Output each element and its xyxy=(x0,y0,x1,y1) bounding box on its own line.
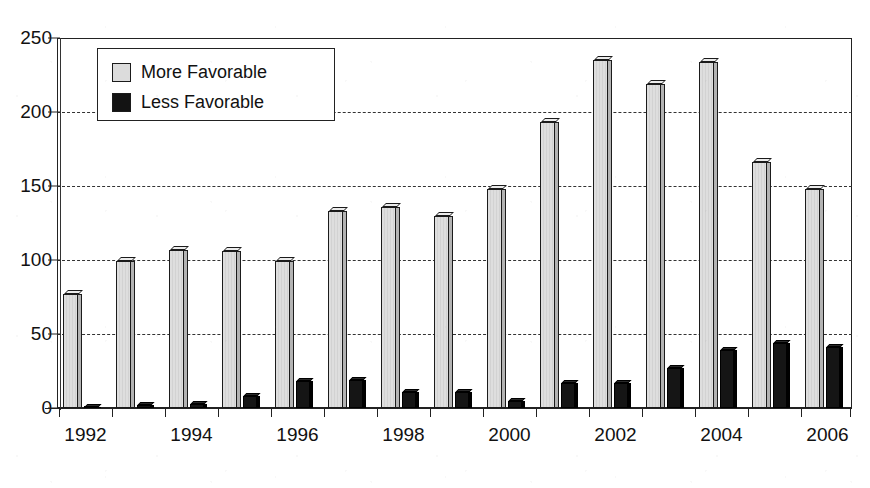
bar-side-3d xyxy=(257,396,260,408)
bar-less-favorable-1993 xyxy=(137,405,151,408)
bar-side-3d xyxy=(820,189,824,408)
bar-side-3d xyxy=(131,261,135,408)
bar-less-favorable-2000 xyxy=(508,401,522,408)
bar-side-3d xyxy=(522,401,525,408)
bar-face xyxy=(381,207,396,408)
bar-face xyxy=(434,216,449,408)
bar-group-2005 xyxy=(752,38,799,408)
y-axis-tick-label-150: 150 xyxy=(8,175,52,197)
legend-box: More Favorable Less Favorable xyxy=(97,48,335,121)
bar-side-3d xyxy=(555,122,559,408)
bar-face xyxy=(349,380,363,408)
bar-more-favorable-2003 xyxy=(646,84,661,408)
bar-more-favorable-2002 xyxy=(593,60,608,408)
bar-less-favorable-1996 xyxy=(296,381,310,408)
bar-less-favorable-1997 xyxy=(349,380,363,408)
bar-face xyxy=(137,405,151,408)
x-axis-tick-2001 xyxy=(536,408,537,417)
bar-side-3d xyxy=(151,405,154,408)
bar-side-3d xyxy=(184,250,188,408)
x-axis-tick-1992 xyxy=(59,408,60,417)
bar-more-favorable-1993 xyxy=(116,261,131,408)
bar-face xyxy=(667,368,681,408)
bar-side-3d xyxy=(469,392,472,408)
bar-group-1997 xyxy=(328,38,375,408)
bar-group-2003 xyxy=(646,38,693,408)
y-axis-tick-label-200: 200 xyxy=(8,101,52,123)
bar-group-2004 xyxy=(699,38,746,408)
x-axis-tick-1996 xyxy=(271,408,272,417)
x-axis-tick-1997 xyxy=(324,408,325,417)
bar-side-3d xyxy=(661,84,665,408)
bar-face xyxy=(222,251,237,408)
bar-face xyxy=(752,162,767,408)
bar-side-3d xyxy=(416,392,419,408)
bar-side-3d xyxy=(608,60,612,408)
bar-face xyxy=(190,404,204,408)
x-axis-label-1996: 1996 xyxy=(276,424,318,446)
bar-more-favorable-1994 xyxy=(169,250,184,408)
bar-side-3d xyxy=(787,343,790,408)
bar-group-2001 xyxy=(540,38,587,408)
bar-face xyxy=(508,401,522,408)
y-axis-tick-label-250: 250 xyxy=(8,27,52,49)
bar-more-favorable-2004 xyxy=(699,62,714,408)
bar-more-favorable-2000 xyxy=(487,189,502,408)
bar-group-1999 xyxy=(434,38,481,408)
bar-face xyxy=(296,381,310,408)
bar-side-3d xyxy=(734,350,737,408)
bar-face xyxy=(116,261,131,408)
bar-top-3d xyxy=(615,380,632,383)
bar-less-favorable-2001 xyxy=(561,383,575,408)
bar-less-favorable-1999 xyxy=(455,392,469,408)
bar-top-3d xyxy=(350,377,367,380)
bar-face xyxy=(328,211,343,408)
bar-less-favorable-1995 xyxy=(243,396,257,408)
x-axis-label-2004: 2004 xyxy=(700,424,742,446)
bar-face xyxy=(402,392,416,408)
bar-face xyxy=(63,294,78,408)
bar-face xyxy=(805,189,820,408)
bar-side-3d xyxy=(502,189,506,408)
bar-face xyxy=(614,383,628,408)
bar-more-favorable-2001 xyxy=(540,122,555,408)
x-axis-label-1998: 1998 xyxy=(382,424,424,446)
bar-more-favorable-1992 xyxy=(63,294,78,408)
bar-top-3d xyxy=(191,401,208,404)
bar-group-2006 xyxy=(805,38,852,408)
bar-side-3d xyxy=(714,62,718,408)
x-axis-tick-2004 xyxy=(695,408,696,417)
bar-top-3d xyxy=(85,404,102,407)
bar-top-3d xyxy=(562,380,579,383)
bar-side-3d xyxy=(575,383,578,408)
bar-more-favorable-2006 xyxy=(805,189,820,408)
x-axis-tick-2005 xyxy=(748,408,749,417)
x-axis-tick-end xyxy=(850,408,851,417)
bar-face xyxy=(699,62,714,408)
bar-more-favorable-1997 xyxy=(328,211,343,408)
bar-more-favorable-1998 xyxy=(381,207,396,408)
bar-top-3d xyxy=(774,340,791,343)
bar-group-1998 xyxy=(381,38,428,408)
x-axis-tick-1994 xyxy=(165,408,166,417)
x-axis-tick-2003 xyxy=(642,408,643,417)
bar-less-favorable-2003 xyxy=(667,368,681,408)
bar-more-favorable-2005 xyxy=(752,162,767,408)
bar-less-favorable-1998 xyxy=(402,392,416,408)
x-axis-tick-2006 xyxy=(801,408,802,417)
x-axis-label-1992: 1992 xyxy=(64,424,106,446)
bar-side-3d xyxy=(681,368,684,408)
bar-face xyxy=(561,383,575,408)
bar-top-3d xyxy=(509,398,526,401)
x-axis-label-2000: 2000 xyxy=(488,424,530,446)
bar-less-favorable-2004 xyxy=(720,350,734,408)
bar-face xyxy=(826,347,840,408)
bar-side-3d xyxy=(290,261,294,408)
bar-more-favorable-1999 xyxy=(434,216,449,408)
x-axis-label-2002: 2002 xyxy=(594,424,636,446)
bar-top-3d xyxy=(456,389,473,392)
bar-face xyxy=(593,60,608,408)
legend-swatch-less-favorable-icon xyxy=(112,93,131,112)
bar-face xyxy=(169,250,184,408)
legend-item-more-favorable: More Favorable xyxy=(112,57,324,87)
